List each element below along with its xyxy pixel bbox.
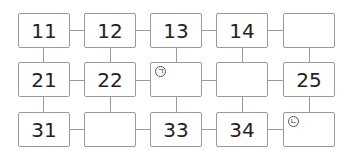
cell-label: 12 <box>97 19 122 43</box>
grid-cell-25: 25 <box>283 62 335 97</box>
connector <box>70 30 84 31</box>
connector <box>309 97 310 112</box>
cell-label: 11 <box>31 19 56 43</box>
cell-label: 13 <box>163 19 188 43</box>
cell-label: 31 <box>31 118 56 142</box>
grid-cell-33: 33 <box>150 112 202 147</box>
connector <box>43 48 44 62</box>
circled-nieun-icon: ㄴ <box>288 116 299 127</box>
connector <box>202 30 216 31</box>
number-grid-diagram: 11 12 13 14 21 22 ㄱ 25 31 33 34 ㄴ <box>0 0 353 160</box>
connector <box>70 129 84 130</box>
grid-cell-21: 21 <box>18 62 70 97</box>
grid-cell-12: 12 <box>84 13 136 48</box>
grid-cell-11: 11 <box>18 13 70 48</box>
connector <box>202 129 216 130</box>
grid-cell-14: 14 <box>216 13 268 48</box>
connector <box>136 129 150 130</box>
connector <box>242 48 243 62</box>
grid-cell-marker-nieun: ㄴ <box>283 112 335 147</box>
grid-cell-31: 31 <box>18 112 70 147</box>
cell-label: 34 <box>229 118 254 142</box>
grid-cell-blank <box>216 62 268 97</box>
connector <box>176 97 177 112</box>
connector <box>70 80 84 81</box>
grid-cell-34: 34 <box>216 112 268 147</box>
grid-cell-marker-giyeok: ㄱ <box>150 62 202 97</box>
connector <box>136 30 150 31</box>
circled-giyeok-icon: ㄱ <box>155 66 166 77</box>
connector <box>110 48 111 62</box>
connector <box>176 48 177 62</box>
grid-cell-22: 22 <box>84 62 136 97</box>
grid-cell-13: 13 <box>150 13 202 48</box>
cell-label: 22 <box>97 68 122 92</box>
grid-cell-blank <box>84 112 136 147</box>
grid-cell-blank <box>283 13 335 48</box>
connector <box>43 97 44 112</box>
cell-label: 33 <box>163 118 188 142</box>
connector <box>268 80 283 81</box>
connector <box>136 80 150 81</box>
cell-label: 25 <box>296 68 321 92</box>
connector <box>242 97 243 112</box>
connector <box>202 80 216 81</box>
cell-label: 21 <box>31 68 56 92</box>
connector <box>309 48 310 62</box>
connector <box>268 30 283 31</box>
connector <box>110 97 111 112</box>
cell-label: 14 <box>229 19 254 43</box>
connector <box>268 129 283 130</box>
